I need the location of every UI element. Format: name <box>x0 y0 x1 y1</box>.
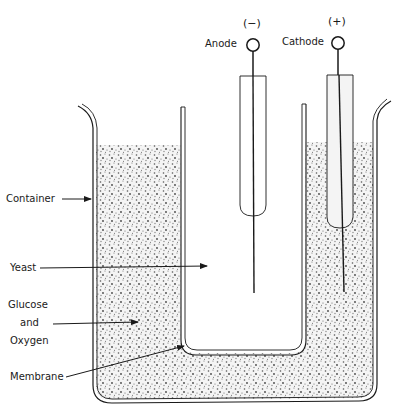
anode-terminal-icon <box>247 39 259 51</box>
glucose-label-line2: and <box>20 317 39 329</box>
glucose-label-line1: Glucose <box>8 299 48 311</box>
anode-label: Anode <box>205 38 237 50</box>
cathode-label: Cathode <box>282 36 324 48</box>
anode-polarity: (−) <box>243 17 261 30</box>
fuel-cell-diagram: (−) (+) Anode Cathode Container Yeast Gl… <box>0 0 405 419</box>
cathode-terminal-icon <box>332 37 344 49</box>
container-label: Container <box>6 193 55 205</box>
cathode-polarity: (+) <box>328 15 346 28</box>
glucose-label-line3: Oxygen <box>10 335 49 347</box>
diagram-drawing <box>0 0 405 419</box>
membrane-label: Membrane <box>10 371 64 383</box>
anode-electrode <box>240 39 266 293</box>
yeast-label: Yeast <box>10 262 36 274</box>
